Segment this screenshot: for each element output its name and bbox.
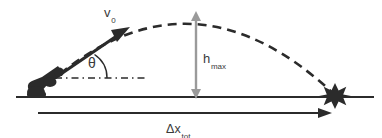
max-height-label-subscript: max: [211, 62, 226, 71]
velocity-label-base: v: [104, 5, 111, 20]
launch-angle-label: θ: [88, 55, 96, 71]
launch-angle-label-base: θ: [88, 55, 96, 71]
max-height-label: hmax: [203, 50, 226, 69]
impact-star-icon: [319, 83, 351, 109]
angle-arc: [95, 55, 108, 79]
diagram-canvas: [0, 0, 382, 138]
range-label-subscript: tot: [182, 132, 191, 138]
projectile-motion-diagram: v0 hmax θ Δxtot: [0, 0, 382, 138]
velocity-label-subscript: 0: [111, 16, 115, 25]
range-label-base: Δx: [166, 122, 181, 136]
max-height-label-base: h: [203, 51, 210, 66]
cannon-launcher-icon: [27, 66, 64, 98]
range-arrow: [38, 108, 332, 118]
range-label: Δxtot: [166, 120, 190, 138]
velocity-label: v0: [104, 4, 115, 23]
